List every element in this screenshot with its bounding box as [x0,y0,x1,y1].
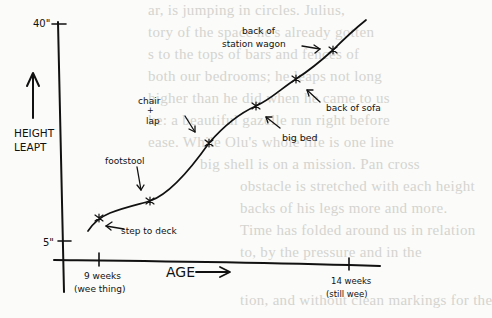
y-axis-label-line1: HEIGHT [14,127,55,139]
annotation-step-to-deck: step to deck [121,226,177,236]
annotation-chair-line3: lap [146,116,160,126]
annotation-back-of-sofa: back of sofa [326,103,381,113]
annotation-footstool: footstool [105,156,144,166]
x-tick-label-right: 14 weeks [331,276,372,286]
annotation-chair-line2: + [147,106,154,115]
y-tick-label-top: 40" [33,18,50,29]
x-tick-label-left: 9 weeks [84,271,121,281]
growth-curve [88,20,366,231]
annotation-station-line1: back of [242,26,276,36]
y-axis-label-line2: LEAPT [14,141,47,153]
y-axis [58,22,64,292]
y-tick-label-bottom: 5" [43,237,54,248]
annotation-big-bed: big bed [282,132,318,143]
x-tick-label-right-sub: (still wee) [326,289,368,299]
annotation-chair-line1: chair [138,96,161,106]
x-tick-label-left-sub: (wee thing) [74,284,125,294]
x-axis-label: AGE [166,264,195,280]
x-axis [54,260,380,266]
annotation-station-line2: station wagon [222,39,286,49]
